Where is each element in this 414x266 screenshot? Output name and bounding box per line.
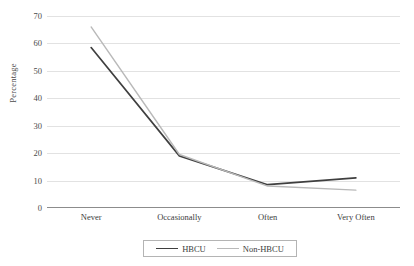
y-tick-label: 0 xyxy=(38,204,42,213)
y-tick-label: 30 xyxy=(34,121,43,130)
series-line-hbcu xyxy=(91,48,356,185)
legend-item-non-hbcu[interactable]: Non-HBCU xyxy=(217,244,284,254)
y-tick-label: 40 xyxy=(34,94,43,103)
y-tick-label: 50 xyxy=(34,67,43,76)
x-tick-label: Never xyxy=(81,212,102,222)
x-tick-label: Often xyxy=(258,212,277,222)
chart-legend: HBCUNon-HBCU xyxy=(143,240,297,257)
y-tick-label: 10 xyxy=(34,176,43,185)
x-tick-label: Very Often xyxy=(337,212,375,222)
y-tick-label: 20 xyxy=(34,149,43,158)
x-tick-label: Occasionally xyxy=(157,212,201,222)
series-lines-group xyxy=(47,16,400,208)
y-tick-label: 70 xyxy=(34,12,43,21)
y-axis-title: Percentage xyxy=(8,38,18,128)
line-chart: Percentage 010203040506070 NeverOccasion… xyxy=(0,0,414,266)
x-axis-labels-group: NeverOccasionallyOftenVery Often xyxy=(47,212,400,230)
plot-area: 010203040506070 xyxy=(47,16,400,208)
legend-line-swatch-icon xyxy=(156,248,178,249)
legend-label: Non-HBCU xyxy=(243,244,284,254)
legend-item-hbcu[interactable]: HBCU xyxy=(156,244,206,254)
legend-label: HBCU xyxy=(182,244,206,254)
legend-line-swatch-icon xyxy=(217,248,239,249)
y-tick-label: 60 xyxy=(34,39,43,48)
series-line-non-hbcu xyxy=(91,27,356,190)
